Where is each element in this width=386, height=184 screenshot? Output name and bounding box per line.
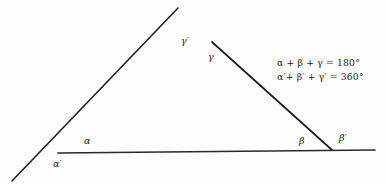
label-gamma: γ: [208, 52, 214, 62]
label-gamma-prime: γ′: [181, 36, 189, 46]
label-beta: β: [299, 136, 305, 146]
triangle-diagram: α α′ β β′ γ γ′ α + β + γ = 180° α′+ β′ +…: [0, 0, 386, 184]
label-alpha-prime: α′: [53, 159, 62, 169]
label-beta-prime: β′: [339, 133, 347, 143]
equation-block: α + β + γ = 180° α′+ β′ + γ′ = 360°: [277, 56, 364, 85]
geometry-drawing: [0, 0, 386, 184]
equation-interior-sum: α + β + γ = 180°: [277, 56, 364, 70]
line-left-side-extended: [12, 8, 178, 181]
equation-exterior-sum: α′+ β′ + γ′ = 360°: [277, 70, 364, 84]
label-alpha: α: [84, 136, 90, 146]
line-base-extended: [58, 150, 375, 153]
